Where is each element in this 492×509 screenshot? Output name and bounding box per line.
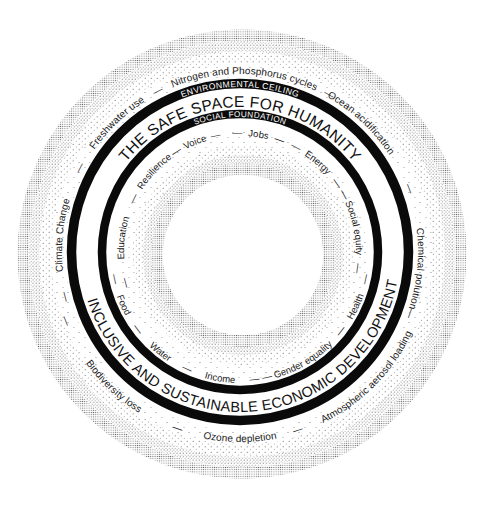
separator-dash: — bbox=[352, 263, 364, 274]
separator-dash: — bbox=[249, 373, 260, 385]
separator-dash: — bbox=[232, 127, 242, 138]
center-hole bbox=[163, 175, 323, 335]
doughnut-diagram: ENVIRONMENTAL CEILING SOCIAL FOUNDATION … bbox=[0, 0, 492, 509]
